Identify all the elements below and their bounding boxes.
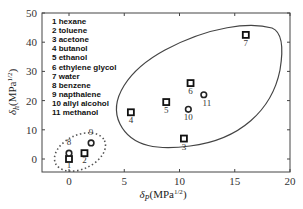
circle-marker bbox=[88, 140, 94, 146]
y-tick-label: 20 bbox=[26, 95, 38, 107]
point-label: 7 bbox=[244, 38, 249, 48]
legend-item: 6 ethylene glycol bbox=[52, 63, 116, 72]
scatter-chart: 0510152001020304050 1234567891011 1 hexa… bbox=[0, 0, 303, 209]
circle-marker bbox=[186, 107, 192, 113]
y-tick-label: 10 bbox=[26, 124, 38, 136]
legend-item: 5 ethanol bbox=[52, 53, 87, 62]
y-tick-label: 30 bbox=[26, 65, 38, 77]
legend: 1 hexane2 toluene3 acetone4 butanol5 eth… bbox=[52, 17, 116, 117]
circle-marker bbox=[201, 92, 207, 98]
point-label: 2 bbox=[82, 155, 87, 165]
y-tick-label: 0 bbox=[32, 153, 38, 165]
legend-item: 9 napthalene bbox=[52, 90, 101, 99]
x-tick-label: 20 bbox=[285, 175, 297, 187]
point-label: 5 bbox=[164, 105, 169, 115]
legend-item: 3 acetone bbox=[52, 35, 89, 44]
point-label: 1 bbox=[67, 160, 72, 170]
y-tick-label: 40 bbox=[26, 36, 38, 48]
x-tick-label: 10 bbox=[174, 175, 186, 187]
legend-item: 4 butanol bbox=[52, 44, 88, 53]
legend-item: 8 benzene bbox=[52, 81, 91, 90]
legend-item: 11 methanol bbox=[52, 108, 98, 117]
legend-item: 2 toluene bbox=[52, 26, 88, 35]
point-label: 4 bbox=[129, 115, 134, 125]
x-tick-label: 5 bbox=[122, 175, 128, 187]
point-label: 6 bbox=[188, 86, 193, 96]
legend-item: 7 water bbox=[52, 72, 80, 81]
dotted-cluster-ellipse bbox=[48, 125, 111, 179]
x-axis-title: δP(MPa1/2) bbox=[139, 188, 186, 203]
y-axis-title: δh(MPa1/2) bbox=[6, 69, 21, 116]
x-tick-label: 15 bbox=[229, 175, 241, 187]
point-label: 3 bbox=[182, 142, 187, 152]
point-label: 11 bbox=[202, 98, 211, 108]
circle-marker bbox=[66, 150, 72, 156]
y-tick-label: 50 bbox=[26, 7, 38, 19]
solid-cluster-ellipse bbox=[117, 26, 282, 148]
legend-item: 10 allyl alcohol bbox=[52, 99, 109, 108]
x-tick-label: 0 bbox=[66, 175, 72, 187]
point-label: 8 bbox=[67, 137, 72, 147]
legend-item: 1 hexane bbox=[52, 17, 87, 26]
point-label: 9 bbox=[89, 127, 94, 137]
point-label: 10 bbox=[184, 112, 194, 122]
